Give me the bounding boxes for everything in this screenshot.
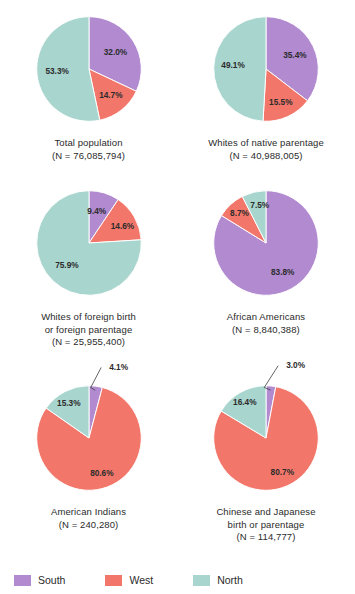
pie-label-3-south: 83.8% [271,268,295,277]
pie-label-0-west: 14.7% [99,91,123,100]
pie-svg-3: 83.8%8.7%7.5% [205,182,327,304]
pie-chart-2: 9.4%14.6%75.9% [28,182,150,304]
pie-title-5: Chinese and Japanese birth or parentage [216,506,315,530]
pie-chart-cell-american-indians: 4.1%80.6%15.3% American Indians (N = 240… [0,355,177,545]
pie-subtitle-4: (N = 240,280) [59,519,119,530]
pie-chart-0: 32.0%14.7%53.3% [28,8,150,130]
legend-swatch-west-icon [105,575,122,586]
pie-svg-1: 35.4%15.5%49.1% [205,8,327,130]
pie-label-2-west: 14.6% [110,222,134,231]
pie-caption-5: Chinese and Japanese birth or parentage … [216,506,315,544]
pie-title-2: Whites of foreign birth or foreign paren… [41,311,136,335]
pie-chart-grid: 32.0%14.7%53.3% Total population (N = 76… [0,0,355,545]
pie-label-4-west: 80.6% [90,469,114,478]
pie-label-3-west: 8.7% [230,209,249,218]
pie-label-2-north: 75.9% [55,261,79,270]
pie-title-0: Total population [54,137,122,148]
pie-label-4-north: 15.3% [57,399,81,408]
pie-label-1-north: 49.1% [221,61,245,70]
legend-label-south: South [38,574,65,586]
pie-label-1-south: 35.4% [283,51,307,60]
pie-svg-5: 3.0%80.7%16.4% [205,377,327,499]
pie-title-3: African Americans [227,311,305,322]
pie-caption-3: African Americans (N = 8,840,388) [227,311,305,336]
legend: South West North [0,574,355,586]
legend-label-west: West [129,574,153,586]
pie-caption-4: American Indians (N = 240,280) [51,506,126,531]
pie-chart-5: 3.0%80.7%16.4% [205,377,327,499]
pie-svg-2: 9.4%14.6%75.9% [28,182,150,304]
pie-subtitle-1: (N = 40,988,005) [229,150,302,161]
pie-label-5-south: 3.0% [286,361,305,370]
pie-chart-4: 4.1%80.6%15.3% [28,377,150,499]
pie-svg-0: 32.0%14.7%53.3% [28,8,150,130]
pie-title-1: Whites of native parentage [208,137,324,148]
pie-chart-1: 35.4%15.5%49.1% [205,8,327,130]
pie-subtitle-3: (N = 8,840,388) [232,324,300,335]
pie-label-5-west: 80.7% [271,468,295,477]
pie-label-0-south: 32.0% [103,48,127,57]
pie-svg-4: 4.1%80.6%15.3% [28,377,150,499]
legend-item-south: South [14,574,65,586]
pie-caption-0: Total population (N = 76,085,794) [52,137,125,162]
legend-swatch-north-icon [193,575,210,586]
legend-swatch-south-icon [14,575,31,586]
pie-subtitle-2: (N = 25,955,400) [52,336,125,347]
pie-label-4-south: 4.1% [109,363,128,372]
legend-item-west: West [105,574,153,586]
pie-subtitle-0: (N = 76,085,794) [52,150,125,161]
pie-label-5-north: 16.4% [233,398,257,407]
pie-chart-figure: 32.0%14.7%53.3% Total population (N = 76… [0,0,355,594]
pie-caption-1: Whites of native parentage (N = 40,988,0… [208,137,324,162]
pie-label-2-south: 9.4% [87,207,106,216]
pie-chart-3: 83.8%8.7%7.5% [205,182,327,304]
pie-label-1-west: 15.5% [269,98,293,107]
pie-chart-cell-chinese-japanese: 3.0%80.7%16.4% Chinese and Japanese birt… [177,355,355,545]
pie-label-0-north: 53.3% [45,67,69,76]
pie-chart-cell-african-americans: 83.8%8.7%7.5% African Americans (N = 8,8… [177,170,355,355]
pie-title-4: American Indians [51,506,126,517]
pie-label-3-north: 7.5% [250,201,269,210]
pie-chart-cell-total-population: 32.0%14.7%53.3% Total population (N = 76… [0,0,177,170]
legend-label-north: North [217,574,243,586]
pie-chart-cell-whites-native-parentage: 35.4%15.5%49.1% Whites of native parenta… [177,0,355,170]
legend-item-north: North [193,574,243,586]
pie-caption-2: Whites of foreign birth or foreign paren… [41,311,136,349]
pie-chart-cell-whites-foreign-birth: 9.4%14.6%75.9% Whites of foreign birth o… [0,170,177,355]
pie-subtitle-5: (N = 114,777) [237,531,296,542]
